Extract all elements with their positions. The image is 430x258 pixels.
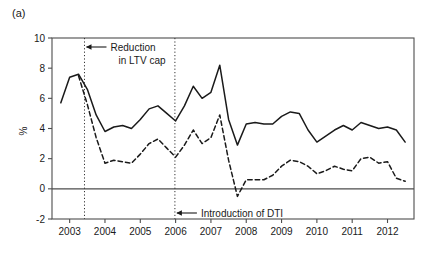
x-tick-label: 2004 [94, 226, 117, 237]
y-tick-label: 4 [39, 123, 45, 134]
y-tick-label: -2 [36, 214, 45, 225]
plot-frame [52, 38, 414, 219]
x-tick-label: 2011 [341, 226, 363, 237]
annotation-ltv-cap-line2: in LTV cap [118, 55, 165, 66]
series-line-solid-series [61, 65, 405, 145]
x-tick-label: 2008 [235, 226, 258, 237]
annotation-ltv-cap-line1: Reduction [110, 42, 155, 53]
x-tick-label: 2006 [164, 226, 187, 237]
x-tick-label: 2003 [59, 226, 82, 237]
y-tick-label: 10 [34, 33, 46, 44]
annotations: Reductionin LTV capIntroduction of DTI [86, 42, 283, 219]
y-tick-label: 0 [39, 183, 45, 194]
x-axis-ticks: 2003200420052006200720082009201020112012 [59, 219, 400, 237]
x-tick-label: 2010 [306, 226, 329, 237]
y-tick-label: 6 [39, 93, 45, 104]
y-axis-ticks: -20246810 [34, 33, 52, 225]
y-tick-label: 8 [39, 63, 45, 74]
annotation-dti-intro: Introduction of DTI [201, 208, 283, 219]
line-chart: -20246810 200320042005200620072008200920… [0, 0, 430, 258]
figure-panel: (a) -20246810 20032004200520062007200820… [0, 0, 430, 258]
x-tick-label: 2007 [200, 226, 223, 237]
x-tick-label: 2005 [129, 226, 152, 237]
y-axis-label: % [18, 126, 29, 135]
y-tick-label: 2 [39, 153, 45, 164]
data-series [61, 65, 405, 196]
x-tick-label: 2009 [270, 226, 293, 237]
x-tick-label: 2012 [376, 226, 399, 237]
